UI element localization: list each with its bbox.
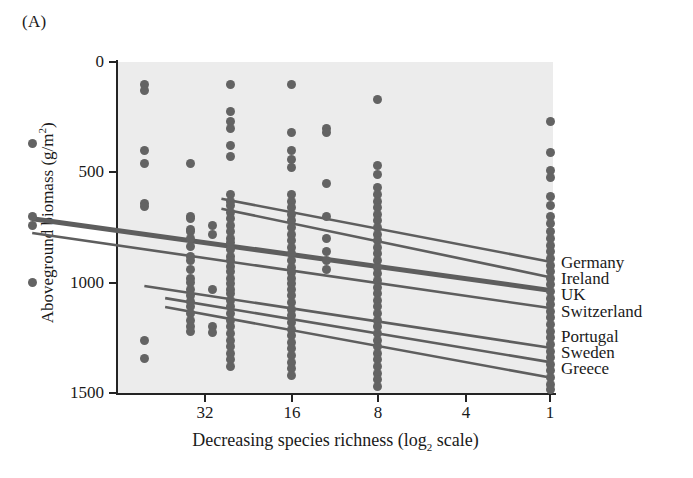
x-axis-title-end: scale) [432, 430, 478, 450]
y-tick-label: 1000 [58, 274, 104, 291]
x-axis-line [116, 393, 556, 395]
panel-label: (A) [22, 12, 47, 32]
y-tick-mark [109, 392, 118, 394]
y-tick-label: 1500 [58, 384, 104, 401]
y-tick-mark [109, 171, 118, 173]
x-tick-label: 1 [530, 404, 570, 421]
y-axis-title-close: ) [38, 122, 57, 128]
y-axis-title-text: Aboveground biomass (g/ [38, 147, 57, 324]
x-tick-mark [204, 393, 206, 402]
x-axis-title: Decreasing species richness (log2 scale) [118, 430, 553, 453]
figure-panel-a: (A) 150010005000 3216841 Aboveground bio… [0, 0, 693, 478]
y-axis-title: Aboveground biomass (g/m2) [36, 58, 58, 388]
y-tick-label: 500 [58, 163, 104, 180]
x-tick-label: 16 [272, 404, 312, 421]
y-tick-mark [109, 282, 118, 284]
x-tick-label: 8 [358, 404, 398, 421]
x-tick-mark [377, 393, 379, 402]
x-axis-title-text: Decreasing species richness (log [192, 430, 426, 450]
y-axis-exponent: 2 [36, 128, 48, 134]
plot-area [118, 62, 553, 393]
legend-label-switzerland: Switzerland [561, 304, 693, 320]
legend-label-greece: Greece [561, 361, 693, 377]
y-tick-mark [109, 61, 118, 63]
x-tick-mark [465, 393, 467, 402]
legend: GermanyIrelandUKSwitzerlandPortugalSwede… [561, 255, 693, 377]
y-axis-unit: m [38, 134, 57, 147]
y-axis-line [116, 60, 118, 395]
x-tick-label: 4 [446, 404, 486, 421]
y-tick-label: 0 [58, 53, 104, 70]
x-tick-mark [549, 393, 551, 402]
x-tick-label: 32 [185, 404, 225, 421]
x-tick-mark [291, 393, 293, 402]
